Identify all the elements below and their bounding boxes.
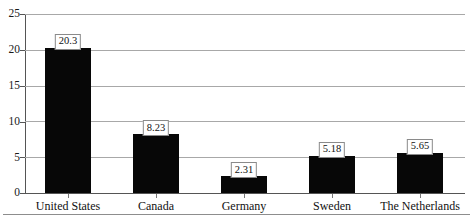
- x-axis-label-united-states: United States: [36, 200, 100, 212]
- y-axis-label-10: 10: [0, 116, 20, 128]
- bar-united-states: [45, 48, 91, 193]
- x-axis-line: [25, 193, 465, 194]
- x-axis-tick-united-states: [68, 194, 69, 198]
- x-axis-tick-the-netherlands: [420, 194, 421, 198]
- value-label-germany: 2.31: [231, 162, 257, 178]
- x-axis-tick-sweden: [332, 194, 333, 198]
- value-label-canada: 8.23: [143, 120, 169, 136]
- bar-chart: 25 20 15 10 5 0 20.3 8.23 2.31 5.18 5.65: [0, 0, 473, 222]
- y-axis-label-5: 5: [0, 152, 20, 164]
- x-axis-tick-germany: [244, 194, 245, 198]
- value-label-united-states: 20.3: [55, 34, 81, 50]
- bar-the-netherlands: [397, 153, 443, 193]
- bottom-divider: [3, 214, 470, 215]
- value-label-the-netherlands: 5.65: [407, 139, 433, 155]
- bar-germany: [221, 176, 267, 193]
- bar-sweden: [309, 156, 355, 193]
- x-axis-label-sweden: Sweden: [313, 200, 351, 212]
- y-axis-label-20: 20: [0, 44, 20, 56]
- value-label-sweden: 5.18: [319, 142, 345, 158]
- x-axis-tick-canada: [156, 194, 157, 198]
- x-axis-label-germany: Germany: [222, 200, 267, 212]
- y-axis-label-0: 0: [0, 187, 20, 199]
- y-axis-label-15: 15: [0, 80, 20, 92]
- y-axis-labels: 25 20 15 10 5 0: [0, 0, 20, 222]
- x-axis-label-canada: Canada: [138, 200, 174, 212]
- x-axis-label-the-netherlands: The Netherlands: [380, 200, 460, 212]
- bar-canada: [133, 134, 179, 193]
- y-axis-label-25: 25: [0, 8, 20, 20]
